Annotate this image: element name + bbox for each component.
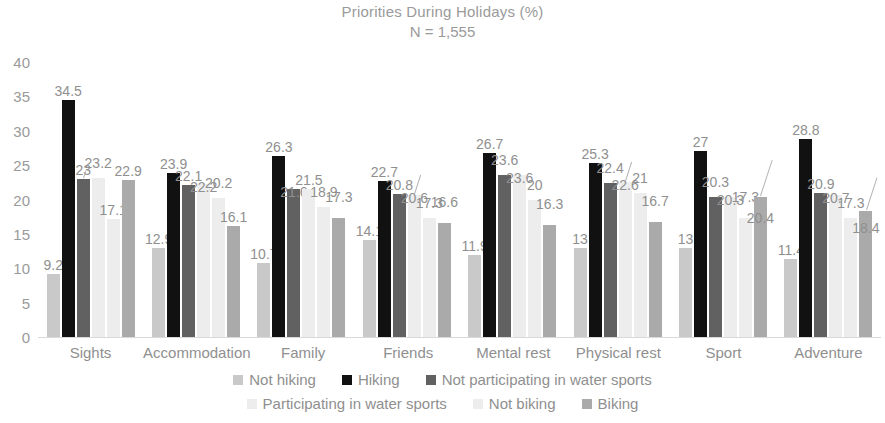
bar-column[interactable]: 18.4 [859,62,872,337]
y-axis-tick: 0 [22,329,30,346]
bar-chart: Priorities During Holidays (%) N = 1,555… [0,0,885,423]
bar[interactable] [408,195,421,337]
bar[interactable] [814,193,827,337]
bar[interactable] [332,218,345,337]
bar-group: 10.726.321.621.518.917.3 [249,62,354,337]
bar[interactable] [589,163,602,337]
plot-area: 9.234.52323.217.122.912.923.922.122.220.… [38,62,881,337]
bar[interactable] [619,182,632,337]
bar-column[interactable]: 23.2 [92,62,105,337]
bar-column[interactable]: 9.2 [47,62,60,337]
bar[interactable] [634,193,647,337]
legend-item[interactable]: Not participating in water sports [426,368,652,392]
bar-column[interactable]: 22.9 [122,62,135,337]
bar-column[interactable]: 16.1 [227,62,240,337]
bar[interactable] [393,194,406,337]
bar-column[interactable]: 20.2 [212,62,225,337]
legend-item[interactable]: Biking [582,392,639,416]
bar[interactable] [649,222,662,337]
bar-column[interactable]: 17.3 [844,62,857,337]
bar-column[interactable]: 23.6 [513,62,526,337]
bar-column[interactable]: 22.1 [182,62,195,337]
bar[interactable] [77,179,90,337]
bar[interactable] [438,223,451,337]
bar[interactable] [317,207,330,337]
bar[interactable] [543,225,556,337]
bar-group: 132720.320.317.320.4 [670,62,775,337]
bar[interactable] [107,219,120,337]
bar[interactable] [513,175,526,337]
bar[interactable] [47,274,60,337]
bar[interactable] [679,248,692,337]
bar-column[interactable]: 21.6 [287,62,300,337]
bar[interactable] [844,218,857,337]
chart-subtitle: N = 1,555 [0,22,885,42]
bar-column[interactable]: 28.8 [799,62,812,337]
bar-group: 1325.322.422.62116.7 [565,62,670,337]
bar-column[interactable]: 20.4 [754,62,767,337]
bar[interactable] [799,139,812,337]
bar-column[interactable]: 17.3 [739,62,752,337]
bar[interactable] [528,200,541,338]
bar[interactable] [604,183,617,337]
bar[interactable] [302,189,315,337]
bar[interactable] [182,185,195,337]
bar-column[interactable]: 17.1 [107,62,120,337]
bar[interactable] [227,226,240,337]
bar-column[interactable]: 13 [574,62,587,337]
bar-column[interactable]: 10.7 [257,62,270,337]
bar[interactable] [363,240,376,337]
y-axis-tick: 25 [13,157,30,174]
bar-column[interactable]: 11.4 [784,62,797,337]
bar[interactable] [378,181,391,337]
bar-column[interactable]: 17.3 [332,62,345,337]
bar-group: 11.926.723.623.62016.3 [460,62,565,337]
bar[interactable] [739,218,752,337]
bar-column[interactable]: 26.7 [483,62,496,337]
bar-column[interactable]: 23 [77,62,90,337]
bar-column[interactable]: 22.2 [197,62,210,337]
bar-column[interactable]: 25.3 [589,62,602,337]
legend-item[interactable]: Not hiking [233,368,316,392]
bar-column[interactable]: 16.6 [438,62,451,337]
bar[interactable] [287,189,300,338]
bar-column[interactable]: 11.9 [468,62,481,337]
bar-column[interactable]: 12.9 [152,62,165,337]
bar[interactable] [498,175,511,337]
bar-value-label: 9.2 [43,257,62,273]
legend-item[interactable]: Hiking [342,368,400,392]
bar[interactable] [784,259,797,337]
bar-column[interactable]: 14.1 [363,62,376,337]
bar-column[interactable]: 26.3 [272,62,285,337]
bar-column[interactable]: 22.4 [604,62,617,337]
bar[interactable] [483,153,496,337]
bar[interactable] [829,195,842,337]
x-axis-line [38,337,881,338]
legend-item[interactable]: Participating in water sports [247,392,447,416]
x-axis-label: Mental rest [461,341,566,367]
bar-column[interactable]: 34.5 [62,62,75,337]
bar[interactable] [724,197,737,337]
bar-value-label: 20.4 [747,210,774,226]
bar[interactable] [709,197,722,337]
bar-column[interactable]: 27 [694,62,707,337]
bar[interactable] [197,184,210,337]
bar[interactable] [257,263,270,337]
bar[interactable] [167,173,180,337]
bar-groups: 9.234.52323.217.122.912.923.922.122.220.… [38,62,881,337]
bar-column[interactable]: 23.9 [167,62,180,337]
bar[interactable] [574,248,587,337]
bar-column[interactable]: 22.7 [378,62,391,337]
legend-item[interactable]: Not biking [473,392,556,416]
bar[interactable] [122,180,135,337]
bar-column[interactable]: 13 [679,62,692,337]
bar-column[interactable]: 22.6 [619,62,632,337]
bar[interactable] [152,248,165,337]
bar-column[interactable]: 16.3 [543,62,556,337]
bar-column[interactable]: 16.7 [649,62,662,337]
bar-column[interactable]: 23.6 [498,62,511,337]
bar[interactable] [62,100,75,337]
bar[interactable] [92,178,105,338]
bar[interactable] [423,218,436,337]
bar[interactable] [468,255,481,337]
